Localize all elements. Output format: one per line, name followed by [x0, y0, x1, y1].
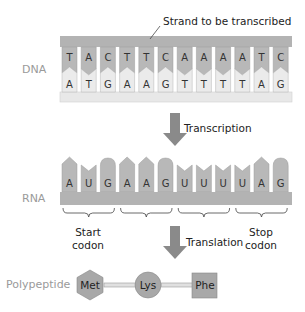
codon-braces: [63, 208, 287, 217]
svg-text:T: T: [219, 79, 227, 90]
stop-codon-label: Stop codon: [241, 226, 281, 252]
svg-text:T: T: [238, 79, 246, 90]
svg-text:A: A: [239, 52, 246, 63]
svg-text:A: A: [66, 79, 73, 90]
svg-text:C: C: [104, 52, 111, 63]
svg-text:G: G: [277, 79, 285, 90]
svg-text:G: G: [104, 79, 112, 90]
met-label: Met: [75, 279, 105, 292]
dna-coding-backbone: [60, 92, 292, 102]
dna-label: DNA: [22, 63, 46, 76]
translation-arrow-icon: [163, 226, 187, 259]
svg-text:U: U: [85, 178, 92, 189]
dna-base-pair: CG: [158, 47, 173, 92]
dna-base-pair: AT: [196, 47, 211, 92]
dna-base-pair: TA: [254, 47, 269, 92]
phe-label: Phe: [190, 279, 220, 292]
svg-text:G: G: [277, 178, 285, 189]
dna-base-pair: AT: [235, 47, 250, 92]
rna-bases: AUGAAGUUUUAG: [62, 157, 288, 192]
rna-base: G: [273, 158, 288, 192]
svg-text:T: T: [181, 79, 189, 90]
stop-codon-line2: codon: [241, 239, 281, 252]
svg-text:A: A: [143, 79, 150, 90]
dna-base-pair: AT: [81, 47, 96, 92]
transcription-label: Transcription: [184, 122, 252, 134]
svg-text:U: U: [239, 178, 246, 189]
peptide-bond-2: [161, 283, 193, 287]
dna-base-pair: CG: [100, 47, 115, 92]
svg-text:A: A: [220, 52, 227, 63]
rna-backbone: [60, 192, 292, 205]
rna-label: RNA: [22, 192, 45, 205]
svg-text:A: A: [143, 178, 150, 189]
svg-text:A: A: [85, 52, 92, 63]
rna-base: A: [62, 157, 77, 192]
rna-base: U: [81, 165, 96, 192]
svg-text:A: A: [66, 178, 73, 189]
dna-base-pair: AT: [177, 47, 192, 92]
dna-template-backbone: [60, 36, 292, 47]
rna-base: U: [235, 165, 250, 192]
svg-text:T: T: [123, 52, 131, 63]
rna-base: U: [196, 165, 211, 192]
start-codon-line1: Start: [68, 226, 108, 239]
svg-text:A: A: [124, 79, 131, 90]
rna-base: U: [177, 165, 192, 192]
svg-text:C: C: [162, 52, 169, 63]
strand-to-be-transcribed-label: Strand to be transcribed: [163, 15, 291, 27]
diagram-graphics: TAATCGTATACGATATATATTACG AUGAAGUUUUAG: [0, 0, 305, 312]
translation-label: Translation: [186, 236, 243, 248]
svg-text:G: G: [162, 178, 170, 189]
dna-base-pairs: TAATCGTATACGATATATATTACG: [62, 47, 288, 92]
svg-text:T: T: [85, 79, 93, 90]
rna-base: U: [216, 165, 231, 192]
rna-base: A: [120, 157, 135, 192]
svg-text:G: G: [104, 178, 112, 189]
svg-text:A: A: [200, 52, 207, 63]
rna-base: G: [100, 158, 115, 192]
start-codon-line2: codon: [68, 239, 108, 252]
svg-text:G: G: [162, 79, 170, 90]
dna-base-pair: CG: [273, 47, 288, 92]
rna-base: A: [139, 157, 154, 192]
rna-base: A: [254, 157, 269, 192]
dna-base-pair: TA: [120, 47, 135, 92]
stop-codon-line1: Stop: [241, 226, 281, 239]
svg-text:C: C: [277, 52, 284, 63]
svg-text:U: U: [219, 178, 226, 189]
svg-text:A: A: [124, 178, 131, 189]
svg-text:A: A: [258, 79, 265, 90]
codon-brace: [178, 208, 229, 217]
dna-base-pair: TA: [62, 47, 77, 92]
codon-brace: [121, 208, 172, 217]
svg-text:A: A: [258, 178, 265, 189]
polypeptide-label: Polypeptide: [6, 278, 70, 291]
svg-text:T: T: [65, 52, 73, 63]
dna-base-pair: AT: [216, 47, 231, 92]
codon-brace: [63, 208, 114, 217]
codon-brace: [236, 208, 287, 217]
rna-base: G: [158, 158, 173, 192]
svg-text:T: T: [142, 52, 150, 63]
svg-text:A: A: [181, 52, 188, 63]
dna-base-pair: TA: [139, 47, 154, 92]
transcription-translation-diagram: TAATCGTATACGATATATATTACG AUGAAGUUUUAG St…: [0, 0, 305, 312]
svg-text:T: T: [200, 79, 208, 90]
start-codon-label: Start codon: [68, 226, 108, 252]
lys-label: Lys: [133, 279, 163, 292]
svg-text:U: U: [200, 178, 207, 189]
peptide-bond-1: [104, 283, 136, 287]
svg-text:T: T: [257, 52, 265, 63]
svg-text:U: U: [181, 178, 188, 189]
